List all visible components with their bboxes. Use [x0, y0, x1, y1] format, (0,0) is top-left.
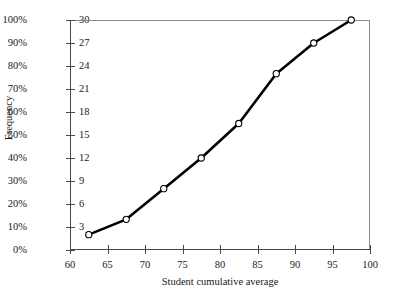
y-tick: [66, 181, 75, 182]
y-tick-label-percent: 0%: [0, 245, 27, 256]
y-tick: [66, 66, 75, 67]
x-tick-label: 65: [88, 260, 128, 271]
x-tick-label: 100: [350, 260, 390, 271]
x-tick-label: 85: [238, 260, 278, 271]
y-tick: [66, 20, 75, 21]
y-tick: [66, 135, 75, 136]
y-tick: [66, 112, 75, 113]
x-tick: [370, 245, 371, 254]
y-tick: [66, 158, 75, 159]
y-tick-label-percent: 30%: [0, 176, 27, 187]
x-tick: [145, 245, 146, 254]
y-tick-label-percent: 90%: [0, 38, 27, 49]
x-tick: [70, 245, 71, 254]
x-tick-label: 95: [313, 260, 353, 271]
y-tick: [66, 204, 75, 205]
y-tick-label-percent: 60%: [0, 107, 27, 118]
y-tick-label-percent: 80%: [0, 61, 27, 72]
x-tick-label: 70: [125, 260, 165, 271]
y-tick-label-percent: 40%: [0, 153, 27, 164]
x-tick-label: 60: [50, 260, 90, 271]
y-tick-label-percent: 70%: [0, 84, 27, 95]
y-tick: [66, 43, 75, 44]
y-tick: [66, 89, 75, 90]
x-tick: [220, 245, 221, 254]
x-tick-label: 75: [163, 260, 203, 271]
x-tick: [183, 245, 184, 254]
frame-right-border: [369, 20, 370, 250]
y-tick-label-percent: 20%: [0, 199, 27, 210]
plot-frame: 6065707580859095100: [70, 20, 370, 250]
x-tick: [258, 245, 259, 254]
x-tick: [108, 245, 109, 254]
y-tick-label-percent: 100%: [0, 15, 27, 26]
x-tick: [333, 245, 334, 254]
x-tick: [295, 245, 296, 254]
y-tick-label-percent: 50%: [0, 130, 27, 141]
x-tick-label: 90: [275, 260, 315, 271]
cumulative-frequency-chart: Frequency 0%10%20%30%40%50%60%70%80%90%1…: [0, 0, 405, 297]
y-tick: [66, 227, 75, 228]
x-axis-title: Student cumulative average: [70, 276, 370, 287]
x-tick-label: 80: [200, 260, 240, 271]
frame-top-border: [70, 20, 370, 21]
y-tick-label-percent: 10%: [0, 222, 27, 233]
